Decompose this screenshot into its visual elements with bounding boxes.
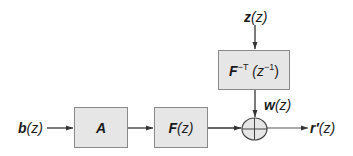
block-a: A: [74, 107, 128, 148]
input-b-arg: (z): [27, 120, 43, 136]
block-f-symbol: F: [169, 120, 178, 136]
signal-w-arg: (z): [275, 97, 291, 113]
input-label-z: z(z): [244, 10, 267, 24]
block-finv-arg-open: (z: [248, 63, 264, 79]
signal-label-w: w(z): [264, 98, 291, 112]
block-finv-sup: −T: [238, 62, 249, 72]
input-b-symbol: b: [18, 120, 27, 136]
block-finv-symbol: F: [229, 63, 238, 79]
input-z-arg: (z): [251, 9, 267, 25]
input-z-symbol: z: [244, 9, 251, 25]
block-a-label: A: [96, 120, 106, 136]
output-r-arg: (z): [319, 120, 335, 136]
output-r-symbol: r′: [310, 120, 319, 136]
block-finv-arg-close: ): [274, 63, 279, 79]
block-f: F(z): [154, 107, 208, 148]
summing-junction: [242, 118, 267, 140]
block-f-arg: (z): [177, 120, 193, 136]
block-diagram: b(z) A F(z) z(z) F−T (z−1) w(z) r′(z): [0, 0, 353, 156]
input-label-b: b(z): [18, 121, 43, 135]
output-label-r: r′(z): [310, 121, 335, 135]
signal-w-symbol: w: [264, 97, 275, 113]
block-finv-arg-sup: −1: [264, 62, 274, 72]
block-finv-label: F−T (z−1): [229, 62, 279, 79]
block-f-inverse-transpose: F−T (z−1): [218, 50, 290, 90]
